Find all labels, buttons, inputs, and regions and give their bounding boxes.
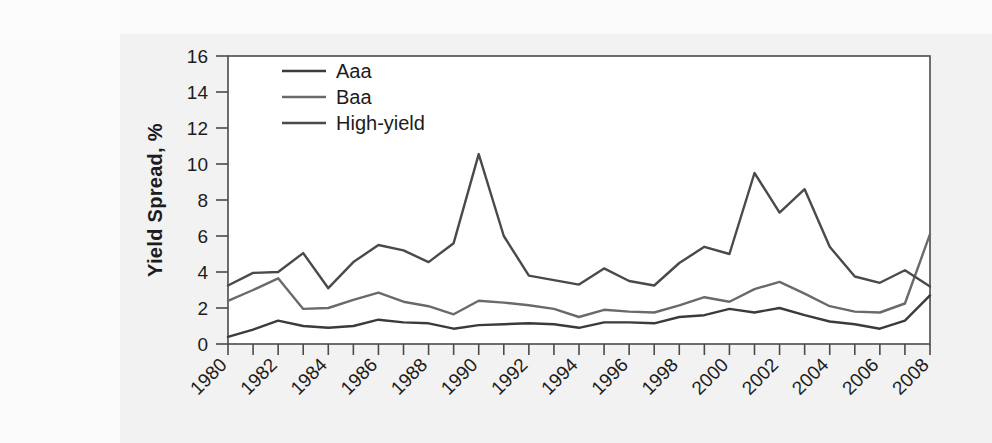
y-tick-label: 10 [187,154,208,175]
y-tick-label: 0 [197,334,208,355]
y-tick-label: 8 [197,190,208,211]
yield-spread-line-chart: 16 14 12 10 8 6 4 2 0 Yield Spread, % 19… [0,0,992,443]
legend-label-high-yield: High-yield [336,112,425,134]
y-tick-label: 4 [197,262,208,283]
chart-svg: 16 14 12 10 8 6 4 2 0 Yield Spread, % 19… [0,0,992,443]
y-tick-label: 6 [197,226,208,247]
figure-background-left-fade [0,0,120,443]
legend-label-baa: Baa [336,86,372,108]
figure-background-top-fade [0,0,992,34]
plot-area-frame [228,56,930,344]
figure-page: 16 14 12 10 8 6 4 2 0 Yield Spread, % 19… [0,0,992,443]
y-axis-title: Yield Spread, % [144,123,166,277]
y-tick-label: 12 [187,118,208,139]
y-tick-label: 2 [197,298,208,319]
y-tick-label: 14 [187,82,209,103]
legend-label-aaa: Aaa [336,60,372,82]
y-tick-label: 16 [187,46,208,67]
